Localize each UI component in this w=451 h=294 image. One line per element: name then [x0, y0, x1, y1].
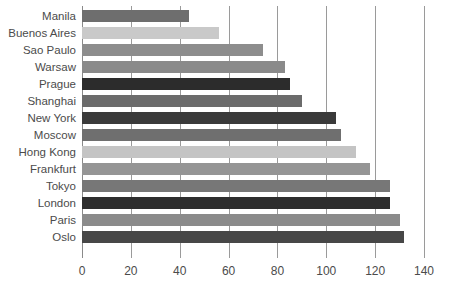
bar-fill: [82, 78, 290, 90]
bar-fill: [82, 180, 390, 192]
bar-fill: [82, 10, 189, 22]
category-label: Manila: [42, 10, 76, 22]
bar-chart: ManilaBuenos AiresSao PauloWarsawPragueS…: [0, 0, 451, 294]
bar-fill: [82, 146, 356, 158]
category-label: Prague: [39, 78, 76, 90]
bar[interactable]: [82, 163, 370, 175]
bar[interactable]: [82, 61, 285, 73]
x-tick-label: 20: [124, 264, 137, 278]
bar[interactable]: [82, 146, 356, 158]
bar[interactable]: [82, 129, 341, 141]
bar[interactable]: [82, 78, 290, 90]
category-label: Hong Kong: [18, 146, 76, 158]
bar-fill: [82, 197, 390, 209]
category-label: Buenos Aires: [8, 27, 76, 39]
x-tick-label: 120: [365, 264, 385, 278]
x-tick-label: 140: [414, 264, 434, 278]
x-tick-label: 100: [316, 264, 336, 278]
category-label: Oslo: [52, 231, 76, 243]
bars-layer: [82, 6, 424, 258]
bar[interactable]: [82, 95, 302, 107]
bar[interactable]: [82, 112, 336, 124]
category-label: Sao Paulo: [23, 44, 76, 56]
category-label: Shanghai: [27, 95, 76, 107]
category-label: New York: [27, 112, 76, 124]
category-label: Frankfurt: [30, 163, 76, 175]
bar-fill: [82, 112, 336, 124]
bar[interactable]: [82, 44, 263, 56]
category-label: Warsaw: [35, 61, 76, 73]
category-label: Moscow: [34, 129, 76, 141]
bar-fill: [82, 163, 370, 175]
x-tick-label: 80: [271, 264, 284, 278]
bar-fill: [82, 231, 404, 243]
bar[interactable]: [82, 180, 390, 192]
x-tick-label: 60: [222, 264, 235, 278]
category-label: Paris: [50, 214, 76, 226]
category-axis-labels: ManilaBuenos AiresSao PauloWarsawPragueS…: [0, 6, 76, 258]
value-axis-labels: 020406080100120140: [0, 264, 451, 286]
category-label: London: [38, 197, 76, 209]
bar-fill: [82, 95, 302, 107]
bar[interactable]: [82, 197, 390, 209]
category-label: Tokyo: [46, 180, 76, 192]
bar[interactable]: [82, 10, 189, 22]
gridline-140: [424, 6, 425, 258]
x-tick-label: 0: [79, 264, 86, 278]
bar-fill: [82, 129, 341, 141]
plot-area: [82, 6, 424, 258]
bar-fill: [82, 27, 219, 39]
bar-fill: [82, 214, 400, 226]
bar-fill: [82, 44, 263, 56]
bar[interactable]: [82, 231, 404, 243]
bar-fill: [82, 61, 285, 73]
bar[interactable]: [82, 214, 400, 226]
x-tick-label: 40: [173, 264, 186, 278]
bar[interactable]: [82, 27, 219, 39]
